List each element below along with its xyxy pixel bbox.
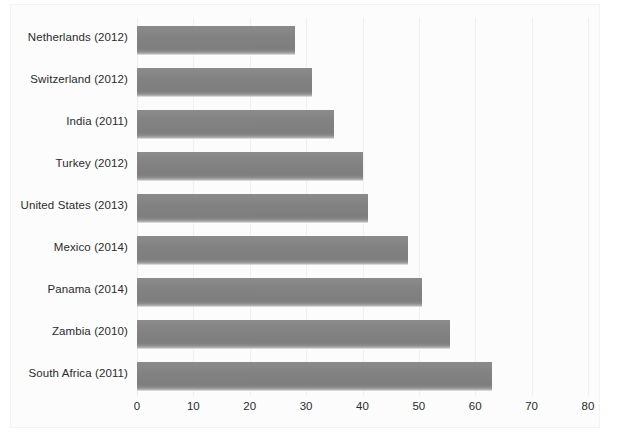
bar	[137, 152, 363, 180]
x-tick-label: 0	[117, 400, 157, 412]
x-tick-label: 50	[399, 400, 439, 412]
category-label: South Africa (2011)	[0, 367, 128, 379]
bar	[137, 68, 312, 96]
bar-row: South Africa (2011)	[0, 355, 623, 397]
category-label: Zambia (2010)	[0, 325, 128, 337]
bar	[137, 320, 450, 348]
category-label: Mexico (2014)	[0, 241, 128, 253]
x-tick-label: 60	[455, 400, 495, 412]
bar	[137, 194, 368, 222]
category-label: Turkey (2012)	[0, 157, 128, 169]
bar-chart: Netherlands (2012)Switzerland (2012)Indi…	[0, 0, 623, 440]
bar-row: Turkey (2012)	[0, 145, 623, 187]
bar-row: Mexico (2014)	[0, 229, 623, 271]
x-tick-label: 10	[173, 400, 213, 412]
x-tick-label: 40	[343, 400, 383, 412]
category-label: United States (2013)	[0, 199, 128, 211]
category-label: India (2011)	[0, 115, 128, 127]
bar	[137, 26, 295, 54]
bar	[137, 110, 334, 138]
bar	[137, 236, 408, 264]
category-label: Panama (2014)	[0, 283, 128, 295]
bar-row: Netherlands (2012)	[0, 19, 623, 61]
bar	[137, 278, 422, 306]
bar-row: Switzerland (2012)	[0, 61, 623, 103]
x-tick-label: 30	[286, 400, 326, 412]
x-tick-label: 20	[230, 400, 270, 412]
category-label: Netherlands (2012)	[0, 31, 128, 43]
x-tick-label: 80	[568, 400, 608, 412]
bar-row: Zambia (2010)	[0, 313, 623, 355]
bar	[137, 362, 492, 390]
category-label: Switzerland (2012)	[0, 73, 128, 85]
x-axis: 01020304050607080	[0, 396, 623, 426]
bar-row: India (2011)	[0, 103, 623, 145]
x-tick-label: 70	[512, 400, 552, 412]
bar-row: Panama (2014)	[0, 271, 623, 313]
bar-row: United States (2013)	[0, 187, 623, 229]
